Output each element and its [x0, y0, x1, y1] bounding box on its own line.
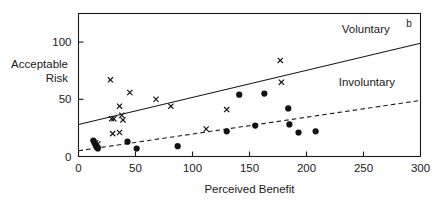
scatter-plot-svg: 050100150200250300 050100 Perceived Bene… — [0, 0, 441, 200]
x-tick-label-200: 200 — [297, 162, 316, 174]
point-voluntary-5 — [110, 131, 115, 136]
point-voluntary-9 — [120, 117, 125, 122]
x-tick-label-250: 250 — [354, 162, 373, 174]
point-involuntary-12 — [285, 105, 291, 111]
point-involuntary-6 — [134, 145, 140, 151]
x-axis-label: Perceived Benefit — [204, 183, 295, 195]
point-voluntary-2 — [108, 77, 113, 82]
point-voluntary-10 — [127, 90, 132, 95]
data-markers — [90, 58, 319, 152]
panel-letter-annotation: b — [406, 18, 412, 29]
point-voluntary-8 — [119, 113, 124, 118]
chart-figure: 050100150200250300 050100 Perceived Bene… — [0, 0, 441, 200]
y-axis-label-line2: Risk — [46, 72, 69, 84]
x-axis-ticks: 050100150200250300 — [75, 152, 430, 174]
point-voluntary-7 — [117, 104, 122, 109]
point-involuntary-5 — [124, 139, 130, 145]
x-tick-label-300: 300 — [411, 162, 430, 174]
point-voluntary-15 — [278, 58, 283, 63]
x-tick-label-100: 100 — [183, 162, 202, 174]
point-involuntary-13 — [286, 121, 292, 127]
y-axis-label-line1: Acceptable — [11, 58, 68, 70]
x-tick-label-0: 0 — [75, 162, 81, 174]
point-involuntary-14 — [295, 129, 301, 135]
point-involuntary-9 — [236, 92, 242, 98]
point-involuntary-10 — [252, 123, 258, 129]
y-tick-label-100: 100 — [52, 36, 71, 48]
point-involuntary-4 — [95, 145, 101, 151]
x-tick-label-150: 150 — [240, 162, 259, 174]
y-tick-label-0: 0 — [65, 151, 71, 163]
point-voluntary-13 — [204, 126, 209, 131]
point-involuntary-15 — [313, 128, 319, 134]
point-involuntary-7 — [175, 143, 181, 149]
point-voluntary-14 — [224, 107, 229, 112]
series-label-voluntary: Voluntary — [342, 23, 390, 35]
x-tick-label-50: 50 — [129, 162, 142, 174]
point-involuntary-11 — [261, 90, 267, 96]
point-voluntary-12 — [168, 104, 173, 109]
series-label-involuntary: Involuntary — [339, 76, 396, 88]
point-voluntary-6 — [117, 130, 122, 135]
regression-lines — [79, 43, 421, 151]
point-voluntary-16 — [279, 80, 284, 85]
point-involuntary-8 — [224, 128, 230, 134]
point-voluntary-11 — [153, 97, 158, 102]
y-tick-label-50: 50 — [59, 93, 72, 105]
